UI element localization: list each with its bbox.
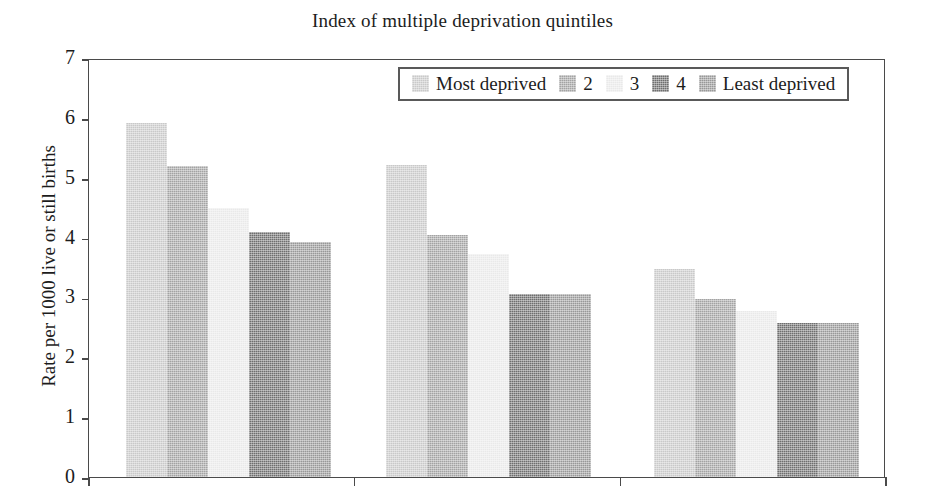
- legend-swatch: [606, 75, 623, 92]
- bar: [777, 323, 818, 477]
- y-tick-mark: [82, 119, 89, 121]
- bar-texture: [509, 294, 550, 477]
- bar: [386, 165, 427, 477]
- bar-texture: [249, 232, 290, 477]
- legend-label: 3: [630, 74, 640, 93]
- x-axis-tick: [885, 477, 887, 486]
- bar-texture: [208, 208, 249, 477]
- bar-texture: [126, 123, 167, 477]
- bar-texture: [427, 235, 468, 477]
- legend-swatch: [559, 75, 576, 92]
- bar: [249, 232, 290, 477]
- chart-title: Index of multiple deprivation quintiles: [0, 10, 925, 32]
- bar-texture: [290, 242, 331, 477]
- legend-swatch: [412, 75, 429, 92]
- bar: [818, 323, 859, 477]
- legend-swatch: [652, 75, 669, 92]
- bar-texture: [550, 294, 591, 477]
- legend-swatch-texture: [652, 75, 669, 92]
- legend-swatch: [699, 75, 716, 92]
- legend-label: 4: [676, 74, 686, 93]
- bar: [427, 235, 468, 477]
- legend-swatch-texture: [606, 75, 623, 92]
- bar: [126, 123, 167, 477]
- bar-texture: [167, 166, 208, 477]
- plot-area: 01234567: [88, 59, 885, 478]
- bar-texture: [654, 269, 695, 477]
- x-axis-tick: [620, 477, 622, 486]
- legend-label: Most deprived: [436, 74, 546, 93]
- bar: [167, 166, 208, 477]
- y-tick-mark: [82, 179, 89, 181]
- bar-texture: [818, 323, 859, 477]
- bar: [695, 299, 736, 477]
- y-tick-mark: [82, 418, 89, 420]
- legend-swatch-texture: [699, 75, 716, 92]
- y-tick-label: 1: [35, 405, 75, 428]
- legend-swatch-texture: [412, 75, 429, 92]
- bar: [290, 242, 331, 477]
- y-tick-label: 5: [35, 166, 75, 189]
- bar-texture: [736, 311, 777, 477]
- y-tick-label: 6: [35, 106, 75, 129]
- bar: [550, 294, 591, 477]
- chart-figure: Index of multiple deprivation quintiles …: [0, 0, 925, 489]
- bar: [468, 254, 509, 477]
- y-tick-mark: [82, 59, 89, 61]
- bar-texture: [777, 323, 818, 477]
- y-tick-label: 4: [35, 226, 75, 249]
- legend-entry: 4: [652, 74, 686, 93]
- legend-entry: Most deprived: [412, 74, 546, 93]
- y-tick-label: 2: [35, 345, 75, 368]
- legend-entry: 3: [606, 74, 640, 93]
- y-tick-mark: [82, 239, 89, 241]
- x-axis-tick: [354, 477, 356, 486]
- y-tick-mark: [82, 299, 89, 301]
- legend-entry: Least deprived: [699, 74, 835, 93]
- legend-label: 2: [583, 74, 593, 93]
- chart-legend: Most deprived234Least deprived: [398, 67, 849, 101]
- y-tick-label: 3: [35, 285, 75, 308]
- legend-swatch-texture: [559, 75, 576, 92]
- x-axis-tick: [88, 477, 90, 486]
- legend-entry: 2: [559, 74, 593, 93]
- legend-label: Least deprived: [723, 74, 835, 93]
- bar: [654, 269, 695, 477]
- bar-texture: [386, 165, 427, 477]
- bar: [208, 208, 249, 477]
- y-tick-label: 7: [35, 46, 75, 69]
- bar-texture: [468, 254, 509, 477]
- bar: [509, 294, 550, 477]
- bar-texture: [695, 299, 736, 477]
- y-tick-label: 0: [35, 465, 75, 488]
- bar: [736, 311, 777, 477]
- y-tick-mark: [82, 358, 89, 360]
